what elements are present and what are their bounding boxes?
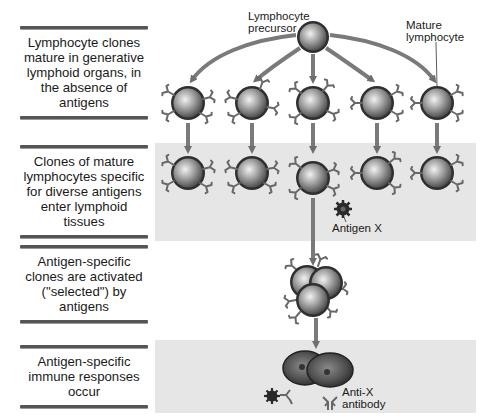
mature-label-line1: Mature bbox=[406, 19, 464, 31]
mature-label-line2: lymphocyte bbox=[406, 31, 464, 43]
tissue-clones-row bbox=[161, 151, 463, 199]
anti-x-antibody-label: Anti-X antibody bbox=[342, 386, 385, 410]
antigen-x-label: Antigen X bbox=[332, 222, 382, 234]
precursor-label: Lymphocyte precursor bbox=[248, 10, 310, 34]
activated-clone-cluster bbox=[284, 254, 348, 325]
plasma-cells bbox=[283, 351, 353, 387]
precursor-label-line1: Lymphocyte bbox=[248, 10, 310, 22]
antigen-antibody-complex bbox=[264, 388, 292, 404]
precursor-label-line2: precursor bbox=[248, 22, 310, 34]
antibody-icon bbox=[323, 397, 337, 410]
antibody-label-line2: antibody bbox=[342, 398, 385, 410]
antibody-label-line1: Anti-X bbox=[342, 386, 385, 398]
entry-arrows bbox=[188, 123, 437, 150]
mature-lymphocyte-label: Mature lymphocyte bbox=[406, 19, 464, 43]
mature-clones-row bbox=[161, 77, 463, 125]
mature-leader-line bbox=[436, 42, 437, 87]
antigen-leader-line bbox=[343, 215, 346, 222]
clonal-selection-diagram bbox=[0, 0, 484, 419]
